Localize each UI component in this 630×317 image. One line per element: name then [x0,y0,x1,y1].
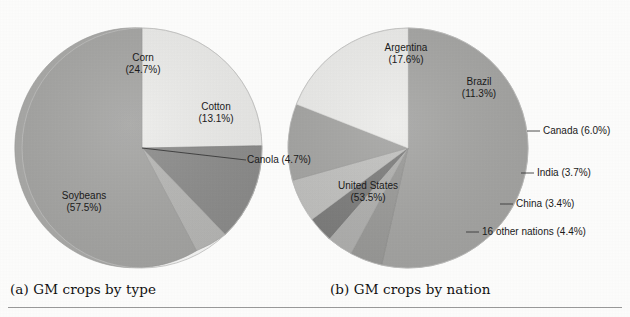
pie-a-label-canola: Canola (4.7%) [247,154,311,166]
caption-b: (b) GM crops by nation [330,281,490,297]
pie-b-label-united-states-name: United States [318,180,418,192]
pie-a-label-corn: Corn (24.7%) [108,52,178,75]
pie-a-label-cotton-name: Cotton [185,101,247,113]
pie-b-label-other-nations-text: 16 other nations (4.4%) [482,226,586,238]
pie-b-label-brazil-name: Brazil [451,76,507,88]
pie-a-label-corn-name: Corn [108,52,178,64]
pie-b-label-argentina-pct: (17.6%) [367,54,445,66]
pie-b-label-india-text: India (3.7%) [537,167,591,179]
pie-b-label-argentina: Argentina (17.6%) [367,42,445,65]
pie-a-label-soybeans-name: Soybeans [42,190,126,202]
pie-a-label-cotton: Cotton (13.1%) [185,101,247,124]
pie-b-label-united-states: United States (53.5%) [318,180,418,203]
bottom-divider [8,307,622,308]
pie-b-label-canada: Canada (6.0%) [543,125,610,137]
pie-b-label-united-states-pct: (53.5%) [318,192,418,204]
pie-a-label-cotton-pct: (13.1%) [185,113,247,125]
pie-a-label-soybeans: Soybeans (57.5%) [42,190,126,213]
caption-a: (a) GM crops by type [10,281,156,297]
pie-a-label-corn-pct: (24.7%) [108,64,178,76]
pie-b-label-other-nations: 16 other nations (4.4%) [482,226,586,238]
pie-b-label-argentina-name: Argentina [367,42,445,54]
pie-b-label-brazil-pct: (11.3%) [451,88,507,100]
figure-container: Corn (24.7%) Cotton (13.1%) Canola (4.7%… [0,0,630,317]
pie-b-label-china-text: China (3.4%) [516,198,574,210]
pie-a-label-soybeans-pct: (57.5%) [42,202,126,214]
pie-chart-a-graphic [0,0,630,317]
pie-b-label-canada-text: Canada (6.0%) [543,125,610,137]
pie-b-label-brazil: Brazil (11.3%) [451,76,507,99]
pie-b-label-china: China (3.4%) [516,198,574,210]
pie-a-label-canola-text: Canola (4.7%) [247,154,311,166]
pie-b-label-india: India (3.7%) [537,167,591,179]
